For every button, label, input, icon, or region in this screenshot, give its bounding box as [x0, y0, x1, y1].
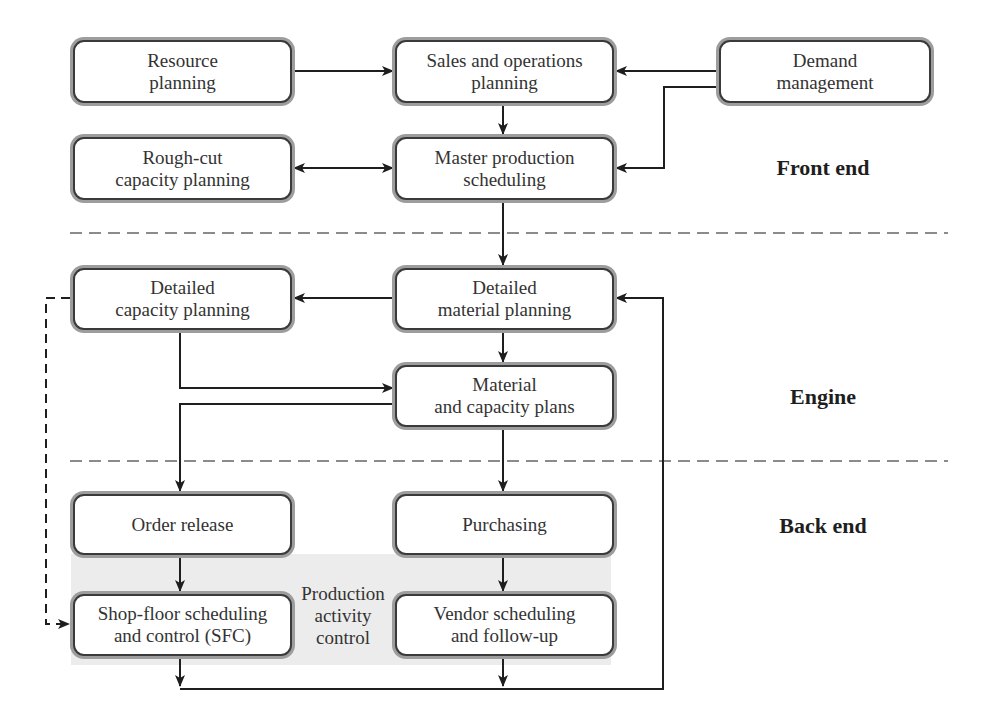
- box-label-line: management: [776, 72, 873, 94]
- box-label-line: Sales and operations: [426, 50, 582, 72]
- box-label-line: and follow-up: [434, 625, 576, 647]
- box-label-line: Demand: [776, 50, 873, 72]
- box-label-line: Resource: [147, 50, 218, 72]
- box-label-line: Detailed: [438, 277, 571, 299]
- section-label-back-end: Back end: [779, 513, 866, 539]
- box-label-line: Master production: [435, 147, 575, 169]
- box-label-line: and control (SFC): [98, 625, 267, 647]
- section-label-front-end: Front end: [776, 155, 869, 181]
- detailed-capacity-planning-box[interactable]: Detailed capacity planning: [73, 268, 292, 330]
- box-label-line: Rough-cut: [115, 147, 250, 169]
- box-label-line: capacity planning: [115, 169, 250, 191]
- box-label-line: Shop-floor scheduling: [98, 603, 267, 625]
- demand-management-box[interactable]: Demand management: [719, 40, 931, 103]
- resource-planning-box[interactable]: Resource planning: [73, 40, 292, 103]
- detailed-material-planning-box[interactable]: Detailed material planning: [395, 268, 614, 330]
- pac-label-line: activity: [301, 605, 384, 627]
- section-label-engine: Engine: [790, 384, 856, 410]
- box-label-line: Purchasing: [462, 514, 546, 536]
- box-label-line: Order release: [132, 514, 234, 536]
- sales-operations-planning-box[interactable]: Sales and operations planning: [395, 40, 614, 103]
- box-label-line: planning: [147, 72, 218, 94]
- vendor-scheduling-followup-box[interactable]: Vendor scheduling and follow-up: [395, 594, 614, 656]
- diagram-canvas: Resource planning Sales and operations p…: [0, 0, 982, 728]
- box-label-line: planning: [426, 72, 582, 94]
- box-label-line: and capacity plans: [434, 396, 574, 418]
- pac-label-line: Production: [301, 583, 384, 605]
- box-label-line: Detailed: [115, 277, 250, 299]
- rough-cut-capacity-planning-box[interactable]: Rough-cut capacity planning: [73, 137, 292, 200]
- production-activity-control-label: Production activity control: [301, 583, 384, 649]
- box-label-line: material planning: [438, 299, 571, 321]
- box-label-line: scheduling: [435, 169, 575, 191]
- material-capacity-plans-box[interactable]: Material and capacity plans: [395, 365, 614, 427]
- order-release-box[interactable]: Order release: [73, 494, 292, 555]
- pac-label-line: control: [301, 627, 384, 649]
- master-production-scheduling-box[interactable]: Master production scheduling: [395, 137, 614, 200]
- box-label-line: Material: [434, 374, 574, 396]
- purchasing-box[interactable]: Purchasing: [395, 494, 614, 555]
- box-label-line: Vendor scheduling: [434, 603, 576, 625]
- box-label-line: capacity planning: [115, 299, 250, 321]
- shop-floor-scheduling-control-box[interactable]: Shop-floor scheduling and control (SFC): [73, 594, 292, 656]
